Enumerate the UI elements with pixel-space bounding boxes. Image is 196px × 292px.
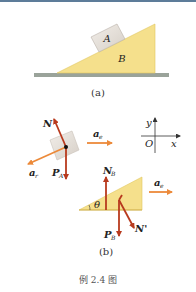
y-axis-label: y (145, 117, 152, 128)
gravity-a-label-sub: A (58, 172, 64, 179)
figure-b-wedge-fbd: θ N B P B N' a e (b) (79, 165, 172, 257)
figure-a: A B (a) (34, 24, 169, 98)
physics-diagram: A B (a) N a e a r P A y x O θ (0, 0, 196, 292)
block-a-label: A (102, 33, 110, 44)
wedge-accel-label-sub: e (160, 182, 164, 189)
center-of-mass-dot (64, 145, 68, 149)
figure-b-block-fbd: N a e a r P A (28, 118, 112, 179)
figure-caption: 例 2.4 图 (79, 274, 117, 285)
caption-b: (b) (99, 246, 113, 257)
ground (34, 73, 169, 77)
origin-label: O (145, 138, 153, 149)
normal-label: N (42, 118, 53, 129)
convected-accel-label-sub: e (99, 133, 103, 140)
caption-a: (a) (91, 87, 105, 98)
wedge-b-fbd (79, 177, 142, 210)
x-axis-label: x (171, 138, 177, 149)
relative-accel-label-sub: r (35, 172, 39, 179)
gravity-b-label-sub: B (110, 234, 116, 241)
angle-label: θ (94, 199, 100, 210)
reaction-label: N' (134, 223, 147, 234)
coordinate-axes: y x O (141, 117, 180, 153)
normal-b-label-sub: B (110, 170, 116, 177)
wedge-b-label: B (117, 53, 125, 64)
